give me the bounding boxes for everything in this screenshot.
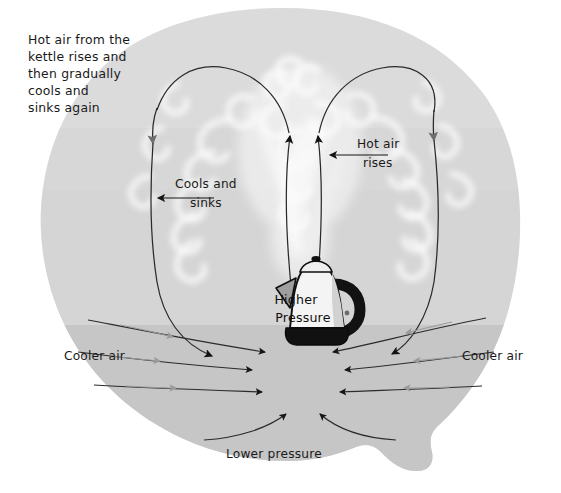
top-note-line-4: cools and <box>28 83 89 98</box>
cools-and-sinks-line-1: Cools and <box>175 177 237 191</box>
hot-air-rises-line-1: Hot air <box>357 137 400 151</box>
hot-air-rises-line-2: rises <box>363 156 393 170</box>
diagram-canvas: Hot air from the kettle rises and then g… <box>0 0 561 493</box>
cools-and-sinks-line-2: sinks <box>190 196 222 210</box>
convection-diagram-svg: Hot air from the kettle rises and then g… <box>0 0 561 493</box>
label-cooler-air-right: Cooler air <box>462 349 524 363</box>
higher-pressure-line-1: Higher <box>274 292 318 307</box>
kettle-knob <box>311 256 320 262</box>
label-lower-pressure: Lower pressure <box>226 447 322 461</box>
top-note-line-5: sinks again <box>28 100 100 115</box>
right-loop-descend-upper <box>433 110 434 140</box>
label-cooler-air-left: Cooler air <box>64 349 126 363</box>
higher-pressure-line-2: Pressure <box>275 310 330 325</box>
kettle-base <box>285 328 348 345</box>
top-note-line-3: then gradually <box>28 66 121 81</box>
kettle-switch-icon <box>345 311 350 316</box>
top-note-line-2: kettle rises and <box>28 49 127 64</box>
top-note-line-1: Hot air from the <box>28 32 130 47</box>
